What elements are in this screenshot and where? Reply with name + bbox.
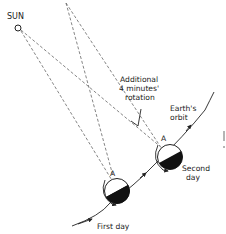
first-day-point-a: A	[110, 169, 116, 178]
sun-icon	[15, 25, 21, 31]
first-day-label: First day	[97, 222, 130, 231]
additional-rotation-label-1: Additional	[120, 75, 158, 84]
second-day-label-2: day	[186, 173, 200, 182]
additional-rotation-label-3: rotation	[125, 93, 155, 102]
second-day-point-a: A	[161, 134, 167, 143]
orbit-arrow-1	[78, 219, 92, 224]
additional-rotation-label-2: 4 minutes'	[119, 84, 159, 93]
first-day-earth	[103, 179, 129, 206]
earths-orbit-label-1: Earth's	[170, 104, 196, 113]
second-day-label-1: Second	[182, 164, 210, 173]
sun-label: SUN	[7, 12, 24, 21]
first-day-parallel-line	[66, 3, 113, 176]
earths-orbit-label-2: orbit	[170, 113, 188, 122]
diagram-canvas: SUN Additional 4 minutes' rotation Earth…	[0, 0, 226, 234]
second-day-earth	[155, 145, 182, 172]
orbit-arrow-2	[140, 173, 146, 178]
